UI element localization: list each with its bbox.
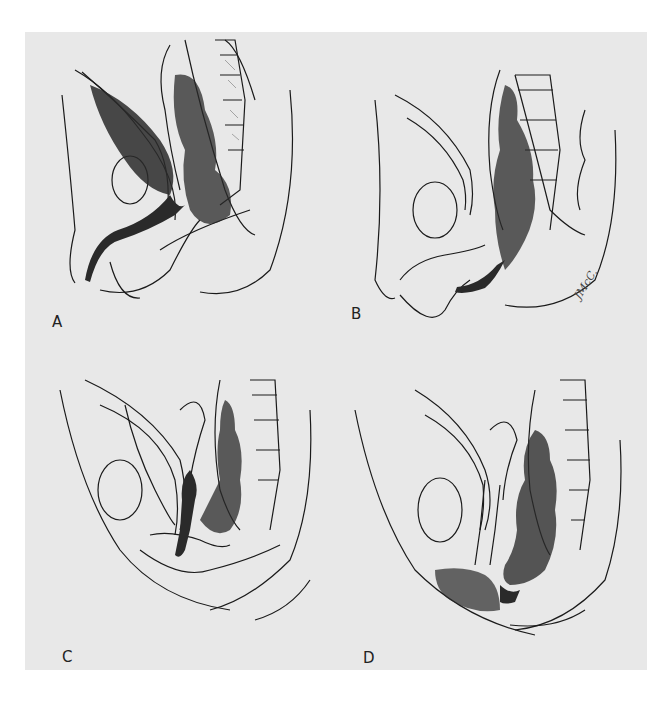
panel-d: D	[335, 370, 645, 690]
panel-b: JMcC. B	[335, 30, 645, 350]
panel-label-d: D	[363, 649, 375, 667]
panel-a-drawing	[30, 30, 340, 350]
panel-d-drawing	[335, 370, 645, 690]
panel-b-drawing: JMcC.	[335, 30, 645, 350]
panel-label-b: B	[351, 305, 361, 323]
panel-c-drawing	[30, 370, 340, 690]
panel-a: A	[30, 30, 340, 350]
panel-c: C	[30, 370, 340, 690]
panel-label-a: A	[52, 313, 62, 331]
panel-label-c: C	[62, 648, 72, 666]
signature: JMcC.	[570, 266, 600, 303]
